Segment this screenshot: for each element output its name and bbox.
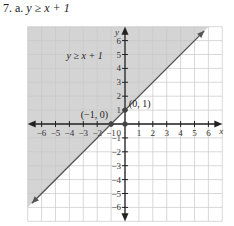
svg-text:−5: −5	[51, 128, 61, 138]
svg-text:2: 2	[151, 128, 156, 138]
svg-text:(0, 1): (0, 1)	[129, 98, 151, 110]
svg-text:−6: −6	[37, 128, 47, 138]
svg-text:5: 5	[192, 128, 197, 138]
svg-text:−3: −3	[79, 128, 89, 138]
svg-text:3: 3	[164, 128, 169, 138]
svg-text:x: x	[218, 126, 223, 136]
svg-text:−2: −2	[111, 147, 121, 157]
svg-text:−2: −2	[92, 128, 102, 138]
svg-text:5: 5	[117, 50, 122, 60]
svg-text:2: 2	[117, 91, 122, 101]
svg-text:−5: −5	[111, 189, 121, 199]
inequality-graph: xy −6−5−4−3−2−1123456−6−5−4−3−2−11234560…	[0, 0, 234, 226]
svg-text:1: 1	[137, 128, 142, 138]
svg-text:(−1, 0): (−1, 0)	[81, 109, 108, 121]
svg-text:−4: −4	[111, 175, 121, 185]
svg-text:−6: −6	[111, 202, 121, 212]
svg-text:0: 0	[117, 128, 122, 138]
svg-text:4: 4	[117, 63, 122, 73]
region-label: y ≥ x + 1	[66, 50, 103, 61]
svg-text:−3: −3	[111, 161, 121, 171]
svg-text:6: 6	[206, 128, 211, 138]
svg-text:4: 4	[178, 128, 183, 138]
svg-text:3: 3	[117, 77, 122, 87]
svg-text:−4: −4	[65, 128, 75, 138]
svg-text:1: 1	[117, 105, 122, 115]
svg-text:6: 6	[117, 36, 122, 46]
